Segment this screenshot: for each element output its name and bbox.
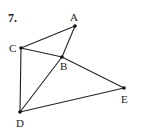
label-b: B [60, 60, 67, 72]
point-d [18, 110, 22, 114]
point-c [19, 46, 23, 50]
segment-be [62, 57, 124, 88]
geometry-figure: 7. A B C D E [0, 0, 141, 132]
problem-number: 7. [8, 11, 17, 25]
point-e [122, 86, 126, 90]
segments [20, 26, 124, 112]
segment-cd [20, 48, 21, 112]
label-a: A [70, 11, 78, 23]
point-a [73, 24, 77, 28]
label-c: C [9, 42, 16, 54]
point-b [60, 55, 64, 59]
label-e: E [121, 93, 128, 105]
segment-cb [21, 48, 62, 57]
label-d: D [16, 117, 24, 129]
